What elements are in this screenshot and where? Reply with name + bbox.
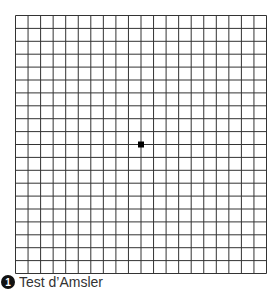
caption-text: Test d’Amsler	[19, 274, 103, 290]
amsler-grid	[15, 15, 267, 274]
figure-caption: 1 Test d’Amsler	[1, 274, 103, 290]
center-fixation-dot	[138, 142, 144, 148]
figure-number-badge: 1	[1, 275, 15, 289]
